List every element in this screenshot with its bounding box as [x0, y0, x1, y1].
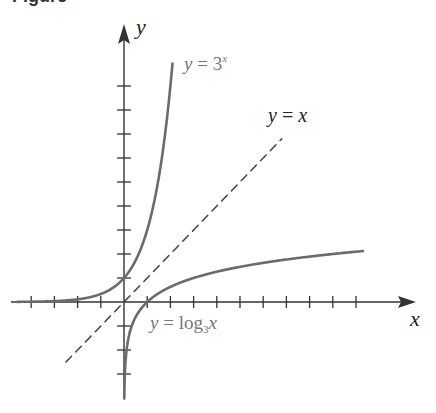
identity-line-label: y = x: [268, 104, 307, 127]
exp-eq: =: [192, 53, 212, 74]
curves: [17, 64, 363, 399]
log-eq: =: [158, 312, 178, 333]
y-axis-label: y: [136, 14, 146, 40]
log-arg: x: [208, 312, 216, 333]
exp-curve: [17, 64, 172, 302]
log-fn: log: [179, 312, 203, 333]
identity-rhs: x: [298, 104, 307, 126]
x-axis-label: x: [410, 306, 420, 332]
exp-curve-label: y = 3x: [184, 52, 227, 75]
axes: [11, 24, 416, 398]
exp-exponent: x: [222, 52, 227, 64]
identity-eq: =: [277, 104, 298, 126]
log-curve-label: y = log3x: [150, 312, 217, 335]
exp-base: 3: [213, 53, 223, 74]
identity-lhs: y: [268, 104, 277, 126]
